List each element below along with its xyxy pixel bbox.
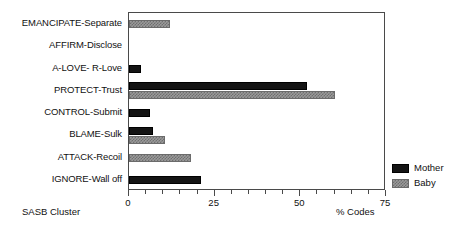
x-axis-tick-label: 0 (125, 197, 130, 208)
legend-label: Baby (414, 178, 436, 188)
x-axis-minor-tick (316, 190, 317, 194)
x-axis-minor-tick (145, 190, 146, 194)
bar-mother (129, 176, 201, 184)
bar-group (129, 35, 384, 57)
grey-hatched-swatch (392, 179, 409, 188)
category-label-protect-trust: PROTECT-Trust (54, 85, 122, 95)
category-label-emancipate-separate: EMANCIPATE-Separate (22, 18, 122, 28)
bar-group (129, 124, 384, 146)
plot-area (128, 12, 385, 190)
bar-mother (129, 109, 150, 117)
x-axis-major-tick (385, 190, 386, 196)
x-axis-title: % Codes (336, 206, 375, 217)
bar-baby (129, 20, 170, 28)
category-label-affirm-disclose: AFFIRM-Disclose (49, 40, 122, 50)
chart-legend: MotherBaby (392, 163, 444, 193)
x-axis: 0255075 (128, 190, 386, 191)
bar-mother (129, 65, 141, 73)
bar-group (129, 102, 384, 124)
legend-item-baby: Baby (392, 178, 444, 188)
x-axis-minor-tick (282, 190, 283, 194)
bar-group (129, 169, 384, 191)
x-axis-minor-tick (368, 190, 369, 194)
bar-group (129, 80, 384, 102)
bar-mother (129, 82, 307, 90)
clipped-figure-caption (28, 239, 428, 246)
x-axis-minor-tick (231, 190, 232, 194)
category-label-ignore-wall-off: IGNORE-Wall off (52, 174, 122, 184)
x-axis-tick-label: 25 (208, 197, 219, 208)
bar-group (129, 13, 384, 35)
bar-baby (129, 154, 191, 162)
bar-baby (129, 136, 165, 144)
category-label-blame-sulk: BLAME-Sulk (69, 129, 122, 139)
bar-mother (129, 127, 153, 135)
x-axis-major-tick (128, 190, 129, 196)
x-axis-minor-tick (265, 190, 266, 194)
bar-group (129, 147, 384, 169)
x-axis-minor-tick (179, 190, 180, 194)
legend-label: Mother (414, 163, 444, 173)
bar-baby (129, 91, 335, 99)
sasb-cluster-bar-chart: EMANCIPATE-SeparateAFFIRM-DiscloseA-LOVE… (0, 0, 454, 246)
category-label-a-love-r-love: A-LOVE- R-Love (52, 63, 122, 73)
x-axis-tick-label: 50 (294, 197, 305, 208)
bar-group (129, 58, 384, 80)
category-label-attack-recoil: ATTACK-Recoil (58, 152, 122, 162)
x-axis-minor-tick (334, 190, 335, 194)
x-axis-minor-tick (248, 190, 249, 194)
category-axis-labels: EMANCIPATE-SeparateAFFIRM-DiscloseA-LOVE… (0, 12, 126, 190)
x-axis-minor-tick (162, 190, 163, 194)
x-axis-tick-label: 75 (380, 197, 391, 208)
x-axis-minor-tick (351, 190, 352, 194)
solid-black-swatch (392, 164, 409, 173)
x-axis-major-tick (299, 190, 300, 196)
legend-item-mother: Mother (392, 163, 444, 173)
x-axis-major-tick (214, 190, 215, 196)
x-axis-minor-tick (197, 190, 198, 194)
y-axis-title: SASB Cluster (22, 206, 80, 217)
category-label-control-submit: CONTROL-Submit (44, 107, 122, 117)
